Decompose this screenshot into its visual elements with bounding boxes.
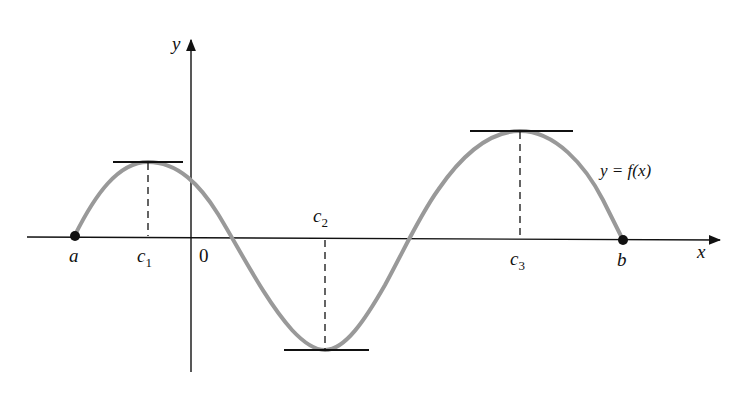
function-curve bbox=[75, 131, 623, 350]
point-b-label: b bbox=[617, 249, 627, 270]
endpoint-a-dot bbox=[70, 231, 80, 241]
origin-label: 0 bbox=[199, 245, 209, 266]
x-axis-label: x bbox=[696, 241, 706, 262]
c2-label: c2 bbox=[313, 205, 328, 230]
c1-label: c1 bbox=[137, 245, 152, 270]
endpoint-b-dot bbox=[618, 235, 628, 245]
y-axis-label: y bbox=[170, 33, 181, 54]
c3-label: c3 bbox=[510, 248, 525, 273]
curve-label: y = f(x) bbox=[598, 161, 651, 180]
x-axis bbox=[27, 237, 720, 240]
point-a-label: a bbox=[69, 245, 79, 266]
rolle-theorem-diagram: y x 0 a b c1 c2 c3 y = f(x) bbox=[0, 0, 734, 395]
